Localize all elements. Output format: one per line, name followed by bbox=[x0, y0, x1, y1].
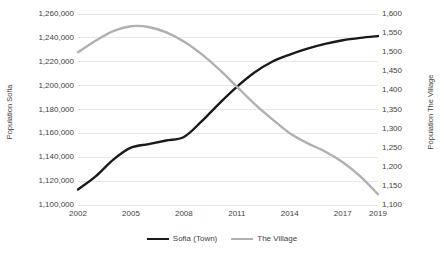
legend-swatch-icon bbox=[147, 238, 169, 240]
x-axis-tick-label: 2008 bbox=[164, 208, 204, 219]
series-line-sofia-town bbox=[78, 36, 378, 189]
x-axis-tick-label: 2002 bbox=[58, 208, 98, 219]
series-line-the-village bbox=[78, 26, 378, 194]
legend-item[interactable]: The Village bbox=[231, 234, 297, 244]
x-axis-tick-label: 2019 bbox=[358, 208, 398, 219]
chart-legend: Sofia (Town)The Village bbox=[0, 231, 444, 247]
x-axis-tick-label: 2005 bbox=[111, 208, 151, 219]
population-line-chart: Population Sofia Population The Village … bbox=[0, 0, 444, 255]
x-axis-tick-label: 2017 bbox=[323, 208, 363, 219]
plot-area bbox=[78, 14, 378, 205]
series-lines bbox=[78, 26, 378, 194]
plot-svg bbox=[78, 14, 378, 205]
x-axis-tick-label: 2011 bbox=[217, 208, 257, 219]
legend-label: The Village bbox=[257, 234, 297, 244]
legend-item[interactable]: Sofia (Town) bbox=[147, 234, 217, 244]
x-axis-tick-label: 2014 bbox=[270, 208, 310, 219]
legend-swatch-icon bbox=[231, 238, 253, 240]
legend-label: Sofia (Town) bbox=[173, 234, 217, 244]
